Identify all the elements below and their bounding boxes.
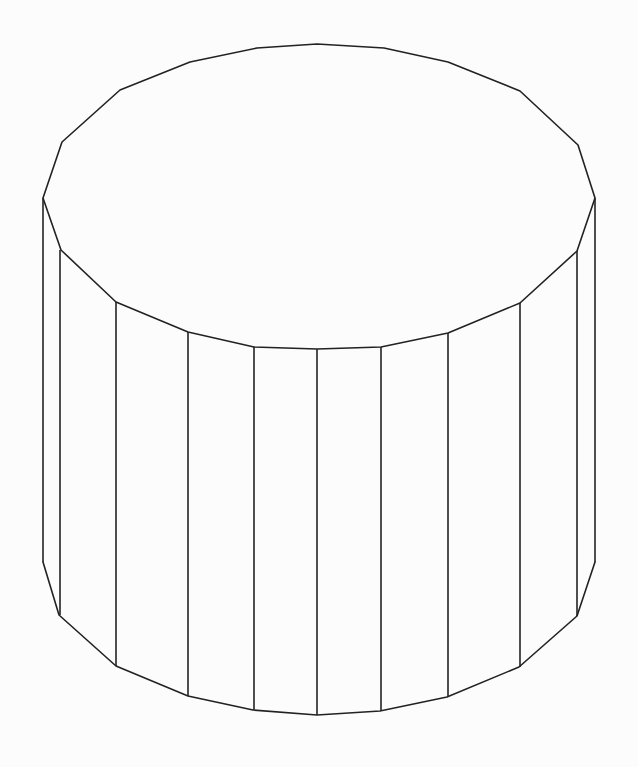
prism-drawing <box>0 0 638 767</box>
top-face <box>43 44 595 349</box>
bottom-edge <box>43 562 595 715</box>
